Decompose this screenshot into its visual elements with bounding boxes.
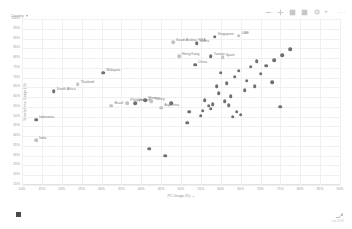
zoom-in-icon[interactable] [277,9,284,16]
grid-line-vertical [42,19,43,185]
data-point[interactable] [215,85,219,89]
more-options-icon[interactable]: ··· [337,9,346,16]
data-point-label: China [198,62,207,66]
filter-icon[interactable] [289,9,296,16]
data-point[interactable] [271,81,275,85]
data-point-labeled[interactable] [52,89,56,93]
x-axis-tick: 35% [118,188,125,191]
data-point-labeled[interactable] [110,104,114,108]
grid-line-vertical [201,19,202,185]
chevron-down-icon[interactable] [324,11,328,13]
data-point[interactable] [265,64,269,68]
data-point-labeled[interactable] [159,106,163,110]
data-point[interactable] [253,85,257,89]
y-axis-tick: 20% [13,174,20,177]
data-point-label: South Africa [57,88,76,92]
y-axis-tick: 30% [13,154,20,157]
data-point-labeled[interactable] [209,54,213,58]
data-point[interactable] [229,94,233,98]
grid-line-vertical [280,19,281,185]
data-point[interactable] [279,105,283,109]
data-point[interactable] [243,88,247,92]
data-point-labeled[interactable] [76,83,80,87]
grid-line-vertical [241,19,242,185]
data-point-labeled[interactable] [133,101,137,105]
data-point[interactable] [245,79,249,83]
data-point[interactable] [231,115,235,119]
data-point[interactable] [147,147,151,151]
plot-area: PC Usage (%) Smartphone Usage (%) 100%95… [22,19,340,185]
data-point[interactable] [235,110,239,114]
brand-logo-icon [335,213,344,219]
watermark-text: nat 2019 [332,220,344,223]
data-point[interactable] [219,71,223,75]
data-point[interactable] [273,58,277,62]
zoom-out-icon[interactable] [265,9,272,16]
data-point[interactable] [187,110,191,114]
data-point[interactable] [201,109,205,113]
data-point-labeled[interactable] [34,118,38,122]
x-axis-label[interactable]: PC Usage (%) [168,194,195,198]
data-point[interactable] [223,99,227,103]
data-point-labeled[interactable] [171,41,175,45]
grid-line-vertical [102,19,103,185]
grid-line-vertical [161,19,162,185]
scatter-chart-widget: ··· Country PC Usage (%) Smartphone Usag… [0,0,352,229]
data-point[interactable] [209,107,213,111]
grid-line-vertical [300,19,301,185]
data-point-label: Hong Kong [182,53,200,57]
data-point-labeled[interactable] [149,99,153,103]
gear-icon[interactable] [313,8,321,16]
data-point[interactable] [203,98,207,102]
table-icon[interactable] [301,9,308,16]
data-point-labeled[interactable] [177,54,181,58]
data-point[interactable] [255,59,259,63]
x-axis-tick: 75% [277,188,284,191]
data-point-labeled[interactable] [221,55,225,59]
data-point[interactable] [237,69,241,73]
data-point[interactable] [281,53,285,57]
data-point-label: Brazil [114,103,123,107]
data-point[interactable] [225,82,229,86]
data-point-labeled[interactable] [143,98,147,102]
data-point-labeled[interactable] [34,138,38,142]
x-axis-tick: 15% [38,188,45,191]
data-point[interactable] [163,154,167,158]
data-point-labeled[interactable] [213,35,217,39]
grid-line-vertical [320,19,321,185]
y-axis-tick: 60% [13,95,20,98]
data-point[interactable] [199,114,203,118]
data-point-label: India [39,137,47,141]
x-axis-tick: 50% [178,188,185,191]
data-point[interactable] [185,121,189,125]
grid-line-vertical [261,19,262,185]
data-point-labeled[interactable] [102,71,106,75]
data-point[interactable] [289,47,293,51]
data-point[interactable] [239,113,243,117]
data-point-labeled[interactable] [237,34,241,38]
x-axis-tick: 25% [78,188,85,191]
data-point[interactable] [227,103,231,107]
chevron-down-icon[interactable] [26,15,28,17]
data-point-label: Malaysia [106,69,120,73]
chevron-down-icon[interactable] [192,196,194,197]
y-axis-tick: 85% [13,47,20,50]
data-point[interactable] [249,65,253,69]
data-point-label: Argentina [164,105,179,109]
x-axis-tick: 80% [297,188,304,191]
data-point-label: Korea [200,40,209,44]
data-point[interactable] [211,102,215,106]
chart-type-badge[interactable] [16,212,21,217]
data-point-labeled[interactable] [195,42,199,46]
data-point-labeled[interactable] [193,63,197,67]
grid-line-vertical [82,19,83,185]
y-axis-tick: 25% [13,164,20,167]
grid-line-vertical [62,19,63,185]
data-point[interactable] [233,75,237,79]
watermark: nat 2019 [332,213,344,223]
data-point[interactable] [217,91,221,95]
y-axis-tick: 95% [13,27,20,30]
data-point[interactable] [259,72,263,76]
data-point[interactable] [169,101,173,105]
data-point-labeled[interactable] [126,101,130,105]
